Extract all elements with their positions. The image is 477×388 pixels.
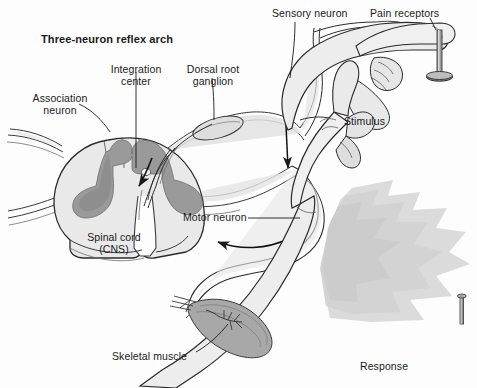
figure-title: Three-neuron reflex arch xyxy=(41,33,173,45)
label-sensory-neuron: Sensory neuron xyxy=(272,8,348,20)
label-motor-neuron: Motor neuron xyxy=(183,212,247,224)
label-dorsal-root-ganglion: Dorsal root ganglion xyxy=(172,64,254,88)
label-integration-center: Integration center xyxy=(96,64,176,88)
diagram-canvas xyxy=(0,0,477,388)
response-folded-fingers xyxy=(336,136,361,168)
label-spinal-cord: Spinal cord (CNS) xyxy=(68,232,160,256)
label-skeletal-muscle: Skeletal muscle xyxy=(112,351,187,363)
motion-shadow-trails xyxy=(320,180,470,322)
reflex-arc-figure: Three-neuron reflex arch Association neu… xyxy=(0,0,477,388)
label-stimulus: Stimulus xyxy=(344,116,385,128)
folded-middle-finger xyxy=(370,57,402,90)
label-pain-receptors: Pain receptors xyxy=(370,8,439,20)
label-response: Response xyxy=(360,361,408,373)
dropped-tack xyxy=(457,294,466,324)
label-association-neuron: Association neuron xyxy=(14,93,106,117)
